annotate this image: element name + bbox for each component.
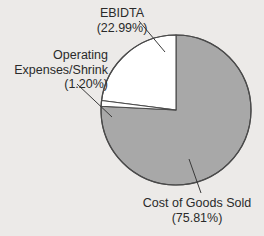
pie-label-opex-name-line1: Operating — [6, 48, 108, 63]
pie-chart-figure: EBIDTA (22.99%) Operating Expenses/Shrin… — [0, 0, 264, 236]
pie-slice-ebidta[interactable] — [102, 35, 176, 110]
pie-label-ebidta: EBIDTA (22.99%) — [84, 6, 160, 35]
pie-label-cogs-percent: (75.81%) — [134, 211, 260, 226]
pie-label-opex-percent: (1.20%) — [6, 77, 108, 92]
pie-label-ebidta-percent: (22.99%) — [84, 21, 160, 36]
pie-label-cost-of-goods-sold: Cost of Goods Sold (75.81%) — [134, 196, 260, 225]
pie-label-opex-name-line2: Expenses/Shrink — [6, 63, 108, 78]
pie-label-operating-expenses-shrink: Operating Expenses/Shrink (1.20%) — [6, 48, 108, 92]
pie-label-ebidta-name: EBIDTA — [84, 6, 160, 21]
pie-label-cogs-name: Cost of Goods Sold — [134, 196, 260, 211]
